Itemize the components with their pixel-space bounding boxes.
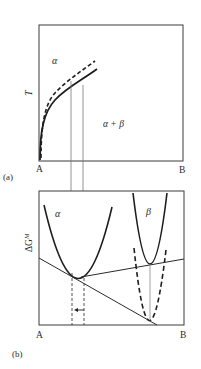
phase-beta-label: β [145,206,151,217]
solvus-solid-curve [40,69,97,160]
x-label-A-b: A [36,330,43,340]
x-label-B: B [179,165,185,175]
panel-b: α β ΔGM A B (b) [12,191,186,359]
svg-text:ΔGM: ΔGM [23,233,34,252]
x-label-B-b: B [180,330,186,340]
panel-a-tag: (a) [3,172,13,182]
panel-b-tag: (b) [12,349,23,359]
panel-a-frame [39,25,183,161]
region-alpha-beta-label: α + β [103,119,124,129]
beta-parabola [133,193,167,264]
y-axis-label-dGM: ΔGM [23,233,34,252]
phase-alpha-label: α [55,208,61,219]
y-axis-label-T: T [23,89,34,96]
region-alpha-label: α [52,55,58,66]
y-axis-label-main: ΔG [24,239,34,252]
common-tangent-line [81,259,184,277]
y-axis-label-superscript: M [23,233,30,240]
diagram-canvas: α α + β T A B (a) α β ΔGM A [0,0,201,369]
x-label-A: A [36,164,43,174]
panel-a: α α + β T A B (a) [3,25,185,191]
shift-arrow-icon [74,308,84,312]
